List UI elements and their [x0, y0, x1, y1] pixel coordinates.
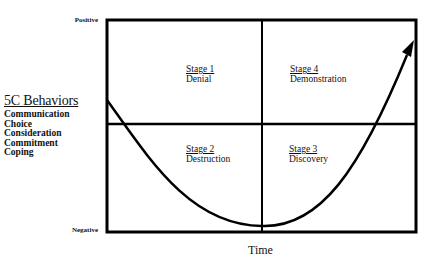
y-axis-negative-label: Negative: [38, 226, 98, 234]
stage-number: Stage 2: [186, 144, 230, 154]
arrow-head-icon: [402, 40, 414, 57]
stage-number: Stage 1: [186, 64, 214, 74]
stage-3-label: Stage 3 Discovery: [289, 144, 328, 164]
stage-number: Stage 3: [289, 144, 328, 154]
stage-name: Discovery: [289, 154, 328, 164]
stage-1-label: Stage 1 Denial: [186, 64, 214, 84]
stage-2-label: Stage 2 Destruction: [186, 144, 230, 164]
y-axis-positive-label: Positive: [38, 16, 98, 24]
stage-4-label: Stage 4 Demonstration: [290, 64, 346, 84]
transition-curve: [107, 55, 407, 226]
stage-name: Destruction: [186, 154, 230, 164]
behaviors-list: Communication Choice Consideration Commi…: [4, 110, 69, 158]
behavior-item: Coping: [4, 148, 69, 158]
x-axis-time-label: Time: [248, 243, 273, 258]
stage-name: Demonstration: [290, 74, 346, 84]
behaviors-title: 5C Behaviors: [4, 93, 78, 109]
stage-number: Stage 4: [290, 64, 346, 74]
stage-name: Denial: [186, 74, 211, 84]
